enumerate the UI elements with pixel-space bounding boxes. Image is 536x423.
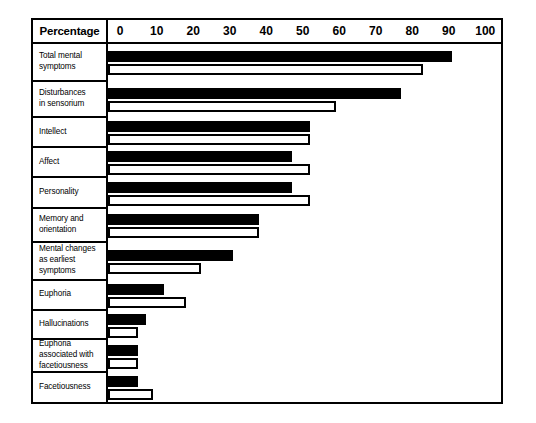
bar-open [108,195,310,206]
category-label-cell: Total mentalsymptoms [33,44,106,82]
x-axis-tick-20: 20 [187,20,200,42]
chart-header-row: Percentage 0102030405060708090100 [33,20,501,44]
category-label-text: Mental changesas earliestsymptoms [39,244,95,277]
plot-area [108,44,501,402]
bar-group [108,44,501,82]
bar-open [108,64,423,75]
bar-open [108,358,138,369]
category-label-text: Memory andorientation [39,214,84,236]
bar-solid [108,284,164,295]
category-label-cell: Euphoria [33,281,106,311]
bar-solid [108,121,310,132]
x-axis-tick-30: 30 [223,20,236,42]
category-label-text: Hallucinations [39,319,89,330]
category-label-text: Euphoria [39,289,71,300]
bar-group [108,148,501,178]
bar-open [108,134,310,145]
bar-group [108,209,501,243]
percentage-header-cell: Percentage [33,20,108,42]
bar-open [108,101,336,112]
bar-group [108,340,501,373]
bar-solid [108,250,233,261]
bar-open [108,164,310,175]
x-axis-tick-60: 60 [333,20,346,42]
category-label-cell: Mental changesas earliestsymptoms [33,243,106,281]
category-label-text: Facetiousness [39,382,91,393]
x-axis-tick-80: 80 [406,20,419,42]
x-axis-tick-90: 90 [442,20,455,42]
category-label-text: Affect [39,157,59,168]
category-label-column: Total mentalsymptomsDisturbancesin senso… [33,44,108,402]
bar-open [108,297,186,308]
bar-group [108,311,501,341]
category-label-cell: Personality [33,178,106,209]
category-label-cell: Hallucinations [33,311,106,341]
chart-frame: Percentage 0102030405060708090100 Total … [31,18,503,404]
category-label-text: Total mentalsymptoms [39,51,82,73]
x-axis-tick-10: 10 [150,20,163,42]
bar-group [108,178,501,209]
percentage-header-label: Percentage [39,25,99,37]
bar-open [108,263,201,274]
category-label-cell: Euphoriaassociated withfacetiousness [33,340,106,373]
category-label-text: Euphoriaassociated withfacetiousness [39,339,93,372]
category-label-text: Personality [39,187,78,198]
bar-solid [108,88,401,99]
category-label-text: Disturbancesin sensorium [39,88,86,110]
bar-open [108,327,138,338]
chart-body: Total mentalsymptomsDisturbancesin senso… [33,44,501,402]
bar-open [108,389,153,400]
x-axis-tick-40: 40 [260,20,273,42]
category-label-cell: Disturbancesin sensorium [33,82,106,118]
bar-group [108,118,501,149]
x-axis-tick-70: 70 [369,20,382,42]
category-label-text: Intellect [39,127,66,138]
bar-solid [108,151,292,162]
x-axis-tick-0: 0 [117,20,124,42]
bar-group [108,243,501,281]
bar-open [108,227,259,238]
bar-solid [108,214,259,225]
bar-solid [108,182,292,193]
category-label-cell: Intellect [33,118,106,149]
bar-solid [108,314,146,325]
bar-solid [108,345,138,356]
bar-solid [108,376,138,387]
x-axis-tick-100: 100 [475,20,495,42]
bar-solid [108,51,452,62]
bar-group [108,82,501,118]
x-axis-tick-50: 50 [296,20,309,42]
bar-group [108,281,501,311]
category-label-cell: Facetiousness [33,373,106,402]
category-label-cell: Affect [33,148,106,178]
bar-group [108,373,501,402]
x-axis: 0102030405060708090100 [108,20,501,42]
category-label-cell: Memory andorientation [33,209,106,243]
